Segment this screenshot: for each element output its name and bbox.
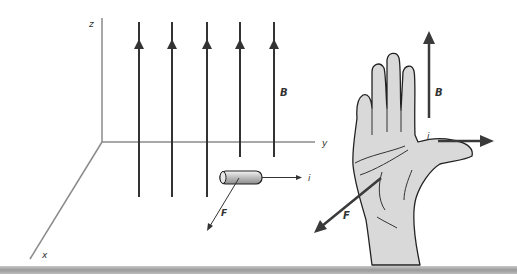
hand-f-label: F [343, 210, 350, 221]
arrow-up-icon [235, 39, 245, 49]
arrow-right-icon [480, 135, 494, 147]
coordinate-axes: z y x [30, 18, 328, 260]
y-axis-label: y [321, 138, 328, 148]
field-label-b: B [280, 87, 288, 98]
current-label-i: i [308, 173, 311, 183]
arrow-right-icon [296, 175, 302, 180]
arrow-up-icon [269, 39, 279, 49]
right-hand-rule-diagram: z y x B i F [0, 0, 517, 274]
conductor-end [220, 172, 226, 184]
x-axis [30, 142, 102, 259]
conductor: i F [207, 171, 311, 231]
arrow-up-icon [423, 31, 435, 44]
bottom-border [0, 266, 517, 274]
force-label-f: F [221, 208, 228, 218]
right-hand [353, 53, 472, 265]
x-axis-label: x [41, 250, 48, 260]
force-arrow [210, 178, 239, 226]
z-axis-label: z [88, 19, 94, 29]
hand-palm [353, 53, 472, 265]
arrow-up-icon [202, 39, 212, 49]
arrow-down-left-icon [207, 223, 213, 231]
hand-b-label: B [435, 87, 443, 98]
arrow-up-icon [167, 39, 177, 49]
arrow-up-icon [134, 39, 144, 49]
